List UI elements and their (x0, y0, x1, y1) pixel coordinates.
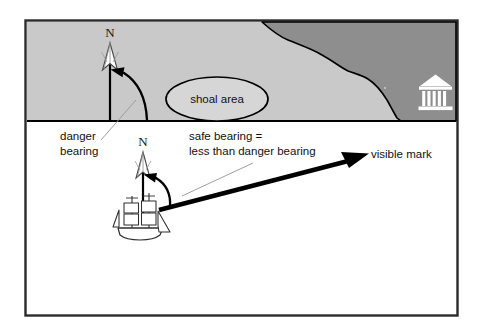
visible-mark-label: visible mark (371, 148, 432, 160)
north-label-ship: N (138, 134, 148, 149)
land-speckle (384, 87, 386, 89)
north-label-danger: N (105, 25, 115, 40)
navigation-diagram: shoal area N (0, 0, 483, 336)
safe-bearing-label-line1: safe bearing = (189, 130, 262, 142)
diagram-canvas: shoal area N (0, 0, 483, 336)
danger-bearing-label-line1: danger (60, 130, 96, 142)
danger-bearing-label-line2: bearing (60, 145, 98, 157)
safe-bearing-label-line2: less than danger bearing (189, 145, 316, 157)
shoal-area-label: shoal area (190, 93, 244, 105)
